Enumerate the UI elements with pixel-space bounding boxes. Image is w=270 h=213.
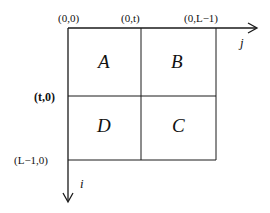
label-left-mid: (t,0) xyxy=(34,90,55,104)
label-top-right: (0,L−1) xyxy=(184,12,218,25)
quadrant-B: B xyxy=(171,51,183,72)
quadrant-A: A xyxy=(96,51,110,72)
label-top-mid: (0,t) xyxy=(121,12,140,25)
block-matrix-diagram: (0,0) (0,t) (0,L−1) (t,0) (L−1,0) j i A … xyxy=(0,0,270,213)
i-axis-label: i xyxy=(80,176,84,191)
quadrant-D: D xyxy=(96,115,111,136)
label-top-left: (0,0) xyxy=(58,12,79,25)
label-left-bottom: (L−1,0) xyxy=(14,154,48,167)
j-axis-label: j xyxy=(238,35,244,50)
quadrant-C: C xyxy=(172,115,185,136)
